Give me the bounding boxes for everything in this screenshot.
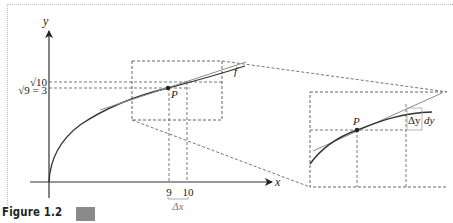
inset-point-p-label: P: [352, 115, 360, 127]
delta-y-label: Δy: [408, 114, 421, 126]
x-axis-label: x: [274, 175, 281, 189]
figure-caption: Figure 1.2: [2, 205, 62, 219]
x-axis: x: [30, 175, 281, 189]
delta-x-label: Δx: [171, 200, 183, 212]
curve-f-label: f: [234, 65, 239, 77]
y-axis-label: y: [42, 14, 49, 28]
y-tick-sqrt9: √9 = 3: [18, 84, 47, 96]
dy-label: dy: [424, 114, 435, 126]
tangent-line: [100, 62, 246, 110]
curve-f: [49, 66, 245, 182]
caption-swatch: [76, 207, 95, 221]
inset-point-p: [355, 128, 360, 133]
point-p-label: P: [170, 88, 178, 100]
x-tick-10: 10: [183, 186, 195, 198]
y-axis: y: [42, 14, 49, 198]
x-tick-9: 9: [166, 186, 172, 198]
inset-magnified-view: P Δy dy: [310, 92, 447, 187]
point-p: [166, 86, 170, 90]
